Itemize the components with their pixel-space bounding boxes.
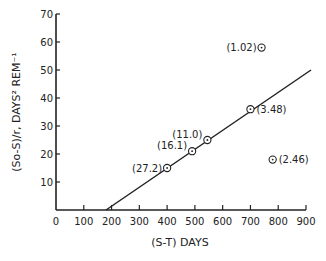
y-axis-title: (So-S)/r, DAYS² REM⁻¹ xyxy=(10,52,23,172)
y-tick-label: 10 xyxy=(40,177,53,188)
point-label: (2.46) xyxy=(279,154,309,165)
x-tick-label: 400 xyxy=(158,216,177,227)
y-tick-label: 30 xyxy=(40,121,53,132)
y-tick-label: 40 xyxy=(40,93,53,104)
point-label: (27.2) xyxy=(132,163,162,174)
point-label: (1.02) xyxy=(226,42,256,53)
x-tick-label: 0 xyxy=(53,216,59,227)
x-tick-label: 500 xyxy=(185,216,204,227)
data-point: (2.46) xyxy=(269,154,309,165)
point-label: (16.1) xyxy=(157,140,187,151)
axes: 1020304050607001002003004005006007008009… xyxy=(40,9,315,228)
x-axis-title: (S-T) DAYS xyxy=(151,236,208,249)
x-tick-label: 200 xyxy=(102,216,121,227)
data-point: (16.1) xyxy=(157,140,196,155)
y-tick-label: 60 xyxy=(40,37,53,48)
data-point: (27.2) xyxy=(132,163,171,174)
y-tick-label: 50 xyxy=(40,65,53,76)
x-tick-label: 900 xyxy=(296,216,315,227)
x-tick-label: 700 xyxy=(241,216,260,227)
x-tick-label: 300 xyxy=(130,216,149,227)
data-point: (3.48) xyxy=(247,104,287,115)
data-points: (27.2)(16.1)(11.0)(3.48)(1.02)(2.46) xyxy=(132,42,309,173)
data-point: (1.02) xyxy=(226,42,265,53)
x-tick-label: 800 xyxy=(269,216,288,227)
scatter-chart: 1020304050607001002003004005006007008009… xyxy=(0,0,326,261)
x-tick-label: 100 xyxy=(74,216,93,227)
y-tick-label: 20 xyxy=(40,149,53,160)
point-label: (3.48) xyxy=(256,104,286,115)
y-tick-label: 70 xyxy=(40,9,53,20)
point-label: (11.0) xyxy=(172,129,202,140)
x-tick-label: 600 xyxy=(213,216,232,227)
